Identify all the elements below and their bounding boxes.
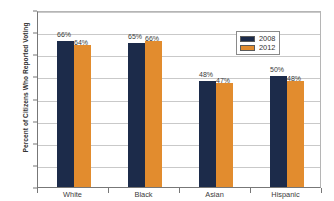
x-tick-mark [321, 188, 322, 193]
x-category-label-black: Black [134, 190, 152, 199]
x-category-label-white: White [63, 190, 82, 199]
bar-hispanic-2008 [270, 76, 287, 187]
legend-label-2008: 2008 [259, 34, 275, 43]
bar-asian-2008 [199, 81, 216, 187]
data-label-white-2008: 66% [57, 31, 71, 38]
bar-white-2012 [74, 45, 91, 187]
bar-asian-2012 [216, 83, 233, 187]
x-tick-mark [250, 188, 251, 193]
legend-item-2012: 2012 [240, 43, 275, 52]
data-label-asian-2008: 48% [199, 71, 213, 78]
data-label-white-2012: 64% [74, 39, 88, 46]
legend: 20082012 [236, 31, 280, 55]
bar-white-2008 [57, 41, 74, 187]
bar-hispanic-2012 [287, 81, 304, 187]
bar-chart: Percent of Citizens Who Reported Voting … [0, 0, 334, 201]
legend-item-2008: 2008 [240, 34, 275, 43]
bar-black-2012 [145, 41, 162, 187]
y-axis-title: Percent of Citizens Who Reported Voting [22, 2, 29, 174]
x-category-label-asian: Asian [205, 190, 224, 199]
data-label-hispanic-2008: 50% [270, 66, 284, 73]
bar-black-2008 [128, 43, 145, 187]
x-tick-mark [108, 188, 109, 193]
x-tick-mark [37, 188, 38, 193]
gridline [38, 12, 320, 13]
legend-label-2012: 2012 [259, 43, 275, 52]
legend-swatch-2008 [240, 36, 255, 42]
data-label-hispanic-2012: 48% [287, 75, 301, 82]
legend-swatch-2012 [240, 45, 255, 51]
x-category-label-hispanic: Hispanic [271, 190, 299, 199]
data-label-asian-2012: 47% [216, 77, 230, 84]
x-tick-mark [179, 188, 180, 193]
data-label-black-2008: 65% [128, 33, 142, 40]
data-label-black-2012: 66% [145, 35, 159, 42]
